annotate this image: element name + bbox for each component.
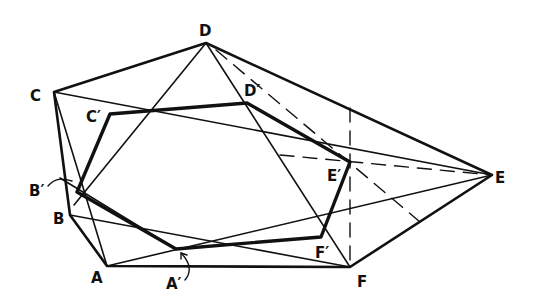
label-b-prime: B′ bbox=[29, 182, 44, 200]
label-d-prime: D′ bbox=[244, 82, 260, 100]
label-a: A bbox=[91, 269, 103, 287]
label-b: B bbox=[53, 210, 64, 228]
label-f-prime: F′ bbox=[315, 244, 329, 262]
label-c: C bbox=[30, 87, 41, 105]
construction-lines bbox=[54, 43, 492, 267]
outer-hexagon bbox=[54, 43, 492, 267]
diagram-canvas: D C C′ D′ B′ B A A′ E′ F′ F E bbox=[0, 0, 536, 306]
label-e-prime: E′ bbox=[327, 167, 341, 185]
label-a-prime: A′ bbox=[166, 275, 182, 293]
label-e: E bbox=[495, 169, 505, 187]
inner-hexagon bbox=[77, 103, 350, 249]
label-c-prime: C′ bbox=[86, 108, 101, 126]
label-f: F bbox=[357, 273, 367, 291]
label-d: D bbox=[199, 22, 211, 40]
brianchon-figure: D C C′ D′ B′ B A A′ E′ F′ F E bbox=[0, 0, 536, 306]
